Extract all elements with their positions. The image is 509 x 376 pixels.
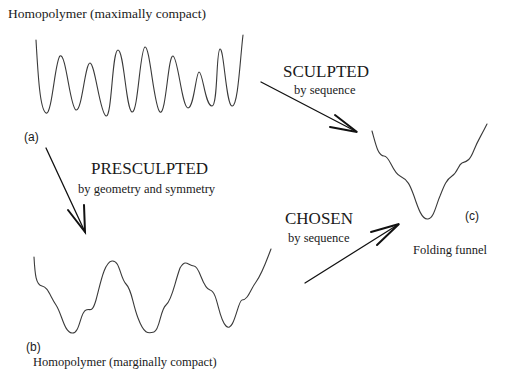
panel-a-title: Homopolymer (maximally compact): [8, 6, 206, 21]
panel-a-landscape-curve: [36, 35, 243, 116]
panel-b-label: (b): [26, 340, 41, 354]
chosen-arrowhead-icon: [371, 224, 399, 245]
panel-b-title: Homopolymer (marginally compact): [33, 355, 217, 369]
panel-c-funnel-curve: [372, 124, 487, 219]
presculpted-heading: PRESCULPTED: [91, 159, 208, 178]
diagram-svg: Homopolymer (maximally compact) (a) SCUL…: [0, 0, 509, 376]
energy-landscape-diagram: Homopolymer (maximally compact) (a) SCUL…: [0, 0, 509, 376]
panel-c-title: Folding funnel: [413, 243, 487, 257]
chosen-subtitle: by sequence: [288, 231, 350, 245]
sculpted-subtitle: by sequence: [294, 83, 356, 97]
sculpted-heading: SCULPTED: [283, 62, 369, 81]
panel-b-landscape-curve: [34, 249, 271, 333]
presculpted-arrowhead-icon: [68, 205, 85, 232]
chosen-heading: CHOSEN: [285, 209, 353, 228]
panel-c-label: (c): [465, 209, 479, 223]
sculpted-arrowhead-icon: [330, 115, 357, 132]
presculpted-subtitle: by geometry and symmetry: [78, 182, 216, 196]
panel-a-label: (a): [24, 130, 39, 144]
